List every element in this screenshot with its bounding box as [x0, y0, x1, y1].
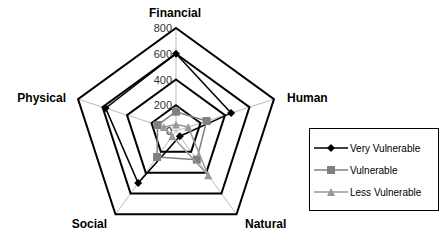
legend-label: Less Vulnerable — [350, 187, 421, 198]
radial-tick-label: 200 — [154, 99, 172, 111]
diamond-marker-icon — [314, 143, 348, 153]
legend-item-vulnerable: Vulnerable — [314, 163, 397, 177]
axis-label-human: Human — [287, 91, 328, 105]
axis-label-natural: Natural — [245, 217, 286, 231]
data-point — [172, 108, 180, 116]
radial-tick-label: 800 — [154, 22, 172, 34]
legend-label: Vulnerable — [350, 165, 397, 176]
legend-item-very-vulnerable: Very Vulnerable — [314, 141, 420, 155]
axis-label-physical: Physical — [17, 91, 66, 105]
data-point — [153, 153, 161, 161]
data-point — [203, 117, 211, 125]
radar-chart: 0200400600800FinancialHumanNaturalSocial… — [0, 0, 443, 236]
legend-item-less-vulnerable: Less Vulnerable — [314, 185, 421, 199]
legend: Very Vulnerable Vulnerable Less Vulnerab… — [309, 128, 439, 211]
axis-label-social: Social — [72, 217, 107, 231]
data-point — [154, 121, 162, 129]
triangle-marker-icon — [314, 187, 348, 197]
square-marker-icon — [314, 165, 348, 175]
axis-label-financial: Financial — [149, 6, 201, 20]
radial-tick-label: 400 — [154, 74, 172, 86]
radial-tick-label: 600 — [154, 48, 172, 60]
legend-label: Very Vulnerable — [350, 143, 420, 154]
